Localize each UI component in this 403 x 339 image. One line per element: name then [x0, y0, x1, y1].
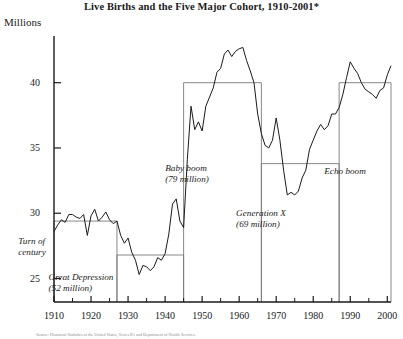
y-tick-label-30: 30 — [10, 207, 40, 218]
cohort-brackets — [54, 83, 391, 302]
x-tick-label-1910: 1910 — [34, 310, 74, 321]
cohort-label-line: (69 million) — [236, 219, 286, 230]
x-tick-label-1990: 1990 — [330, 310, 370, 321]
x-tick-label-1920: 1920 — [71, 310, 111, 321]
y-tick-label-35: 35 — [10, 142, 40, 153]
cohort-label-baby-boom: Baby boom(79 million) — [165, 163, 209, 184]
cohort-label-great-depression: Great Depression(52 million) — [49, 272, 114, 293]
cohort-label-line: Baby boom — [165, 163, 209, 174]
cohort-label-line: Turn of — [18, 236, 46, 247]
y-tick-label-25: 25 — [10, 273, 40, 284]
chart-figure: Live Births and the Five Major Cohort, 1… — [0, 0, 403, 339]
x-tick-label-1960: 1960 — [219, 310, 259, 321]
cohort-bracket-great-depression — [117, 255, 184, 302]
x-tick-label-2000: 2000 — [367, 310, 403, 321]
cohort-bracket-echo-boom — [339, 83, 391, 302]
cohort-label-line: (79 million) — [165, 174, 209, 185]
x-tick-label-1940: 1940 — [145, 310, 185, 321]
cohort-label-line: century — [18, 247, 46, 258]
y-tick-label-40: 40 — [10, 77, 40, 88]
cohort-label-turn-of-century: Turn ofcentury — [18, 236, 46, 257]
cohort-label-line: Generation X — [236, 208, 286, 219]
x-tick-label-1980: 1980 — [293, 310, 333, 321]
x-tick-label-1930: 1930 — [108, 310, 148, 321]
cohort-label-echo-boom: Echo boom — [324, 166, 366, 177]
source-note: Source: Historical Statistics of the Uni… — [36, 332, 366, 337]
cohort-label-generation-x: Generation X(69 million) — [236, 208, 286, 229]
cohort-label-line: Echo boom — [324, 166, 366, 177]
cohort-label-line: (52 million) — [49, 283, 114, 294]
x-tick-label-1970: 1970 — [256, 310, 296, 321]
tick-marks — [54, 83, 387, 302]
births-line-series — [54, 47, 391, 274]
cohort-bracket-baby-boom — [184, 83, 262, 302]
x-tick-label-1950: 1950 — [182, 310, 222, 321]
cohort-label-line: Great Depression — [49, 272, 114, 283]
